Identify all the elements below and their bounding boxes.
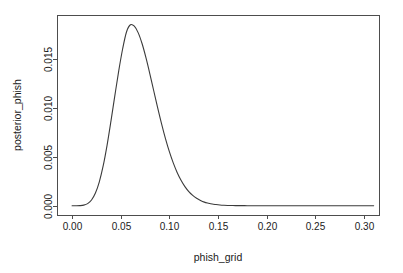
- y-tick-label-3: 0.015: [43, 47, 54, 72]
- figure-background: [0, 0, 403, 273]
- x-tick-label-0: 0.00: [63, 221, 83, 232]
- x-tick-label-1: 0.05: [112, 221, 132, 232]
- y-axis-title: posterior_phish: [11, 79, 23, 151]
- y-tick-label-1: 0.005: [43, 145, 54, 170]
- x-tick-label-3: 0.15: [209, 221, 229, 232]
- y-tick-label-2: 0.010: [43, 96, 54, 121]
- x-tick-label-2: 0.10: [160, 221, 180, 232]
- y-tick-label-0: 0.000: [43, 194, 54, 219]
- x-tick-label-6: 0.30: [355, 221, 375, 232]
- r-plot-figure: 0.000.050.100.150.200.250.30 0.0000.0050…: [0, 0, 403, 273]
- x-axis-title: phish_grid: [194, 251, 243, 263]
- x-tick-label-5: 0.25: [306, 221, 326, 232]
- plot-canvas: 0.000.050.100.150.200.250.30 0.0000.0050…: [0, 0, 403, 273]
- x-tick-label-4: 0.20: [258, 221, 278, 232]
